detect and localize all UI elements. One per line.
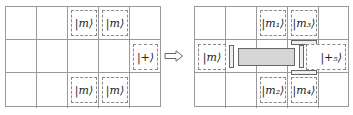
double-right-arrow-icon: [164, 50, 184, 62]
left-grid: |m⟩ |m⟩ |+⟩ |m⟩ |m⟩: [5, 6, 161, 107]
boundary-bar-right: [299, 45, 304, 68]
ket-m: |m⟩: [71, 10, 97, 36]
ket-m1: |m₁⟩: [260, 10, 286, 36]
ket-m4: |m₄⟩: [291, 77, 317, 103]
ket-m: |m⟩: [102, 77, 128, 103]
right-grid: |m₁⟩ |m₃⟩ |m⟩ |+₅⟩ |m₂⟩ |m₄⟩: [194, 6, 349, 107]
ket-m: |m⟩: [71, 77, 97, 103]
ket-plus5: |+₅⟩: [306, 44, 346, 70]
ket-m2: |m₂⟩: [260, 77, 286, 103]
merged-patch: [238, 48, 295, 66]
ket-m: |m⟩: [198, 44, 226, 70]
boundary-bar-bottom: [291, 70, 317, 75]
ket-m3: |m₃⟩: [291, 10, 317, 36]
boundary-bar-left: [229, 45, 234, 68]
ket-m: |m⟩: [102, 10, 128, 36]
ket-plus: |+⟩: [133, 44, 158, 70]
